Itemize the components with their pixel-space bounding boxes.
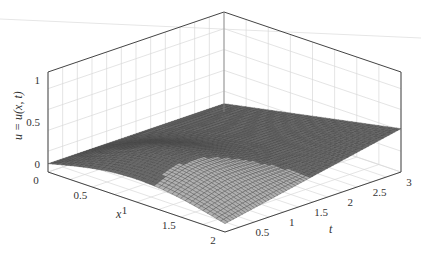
x-tick-label: 1.5 bbox=[162, 219, 176, 231]
x-tick-label: 1 bbox=[122, 204, 128, 216]
z-tick-label: 0.5 bbox=[26, 116, 40, 128]
t-tick-label: 2.5 bbox=[373, 186, 387, 198]
t-tick-label: 0.5 bbox=[255, 226, 269, 238]
t-axis-label: t bbox=[329, 222, 333, 236]
z-axis-label: u = u(x, t) bbox=[11, 91, 25, 140]
t-tick-label: 3 bbox=[406, 176, 412, 188]
z-tick-label: 1 bbox=[35, 74, 41, 86]
t-tick-label: 1.5 bbox=[314, 206, 328, 218]
stray-line bbox=[0, 19, 421, 38]
x-axis-label: x bbox=[115, 207, 122, 221]
t-tick-label: 1 bbox=[289, 216, 295, 228]
t-tick-label: 2 bbox=[348, 196, 354, 208]
x-tick-label: 0.5 bbox=[73, 189, 87, 201]
x-tick-label: 0 bbox=[33, 174, 39, 186]
z-tick-label: 0 bbox=[35, 158, 41, 170]
surface-plot: 00.511.520.511.522.5300.51 x t u = u(x, … bbox=[0, 0, 421, 256]
x-tick-label: 2 bbox=[210, 234, 216, 246]
